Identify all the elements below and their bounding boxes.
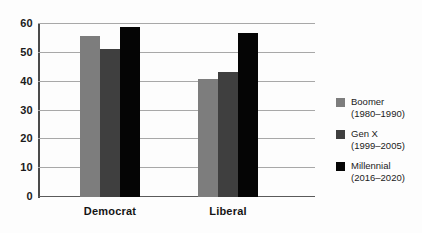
bar-group-democrat [80,24,140,197]
y-axis-tick-labels: 0102030405060 [0,0,33,233]
bar-chart: 0102030405060 DemocratLiberal Boomer(198… [0,0,422,233]
legend-series-range: (2016–2020) [351,172,405,184]
y-tick-label-10: 10 [3,161,33,173]
y-tick-label-60: 60 [3,17,33,29]
legend-series-range: (1980–1990) [351,108,405,120]
y-tick-label-50: 50 [3,46,33,58]
legend-series-range: (1999–2005) [351,140,405,152]
bar-liberal-millennial [238,33,258,197]
bar-liberal-boomer [198,79,218,197]
bar-democrat-gen-x [100,49,120,197]
legend-label: Boomer(1980–1990) [351,96,405,119]
bar-democrat-millennial [120,27,140,197]
y-tick-label-20: 20 [3,132,33,144]
y-tick-label-0: 0 [3,190,33,202]
bar-liberal-gen-x [218,72,238,197]
legend: Boomer(1980–1990)Gen X(1999–2005)Millenn… [336,96,422,192]
y-tick-label-30: 30 [3,104,33,116]
legend-swatch-icon [336,162,345,171]
plot-area [38,24,315,197]
legend-label: Gen X(1999–2005) [351,128,405,151]
legend-swatch-icon [336,98,345,107]
legend-item-millennial[interactable]: Millennial(2016–2020) [336,160,422,183]
legend-label: Millennial(2016–2020) [351,160,405,183]
legend-series-name: Gen X [351,128,405,140]
legend-series-name: Millennial [351,160,405,172]
category-label-liberal: Liberal [178,205,278,217]
y-tick-label-40: 40 [3,75,33,87]
legend-swatch-icon [336,130,345,139]
legend-series-name: Boomer [351,96,405,108]
bar-group-liberal [198,24,258,197]
bar-democrat-boomer [80,36,100,197]
legend-item-boomer[interactable]: Boomer(1980–1990) [336,96,422,119]
category-label-democrat: Democrat [60,205,160,217]
legend-item-gen-x[interactable]: Gen X(1999–2005) [336,128,422,151]
